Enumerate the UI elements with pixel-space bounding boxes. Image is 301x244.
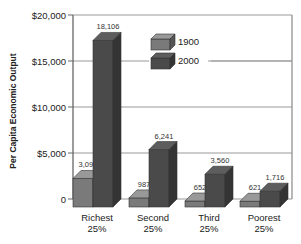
bar-chart: 0$5,000$10,000$15,000$20,000 3,09818,106… bbox=[0, 0, 301, 244]
value-label: 621 bbox=[249, 183, 262, 192]
legend-swatch bbox=[151, 58, 170, 69]
x-category-sublabel: 25% bbox=[199, 223, 219, 234]
legend-label: 1900 bbox=[178, 36, 199, 47]
y-tick-label: $5,000 bbox=[37, 148, 66, 159]
y-tick-label: $10,000 bbox=[32, 102, 66, 113]
x-category-label: Second bbox=[137, 212, 169, 223]
x-category-label: Third bbox=[198, 212, 220, 223]
x-category-sublabel: 25% bbox=[143, 223, 163, 234]
value-label: 652 bbox=[194, 183, 207, 192]
bar-2000: 1,716 bbox=[260, 173, 288, 207]
x-category-sublabel: 25% bbox=[254, 223, 274, 234]
value-label: 6,241 bbox=[155, 132, 174, 141]
y-tick-label: $15,000 bbox=[32, 56, 66, 67]
legend: 19002000 bbox=[149, 30, 292, 72]
bar-2000: 3,560 bbox=[205, 156, 233, 207]
value-label: 1,716 bbox=[266, 173, 285, 182]
x-category-label: Richest bbox=[81, 212, 113, 223]
value-label: 18,106 bbox=[97, 22, 120, 31]
y-tick-label: $20,000 bbox=[32, 10, 66, 21]
legend-swatch bbox=[151, 39, 170, 50]
value-label: 3,560 bbox=[211, 156, 230, 165]
bar-2000: 6,241 bbox=[149, 132, 177, 207]
legend-label: 2000 bbox=[178, 55, 199, 66]
y-axis-label: Per Capita Economic Output bbox=[8, 53, 18, 168]
x-category-label: Poorest bbox=[248, 212, 281, 223]
bar-2000: 18,106 bbox=[93, 22, 121, 207]
x-category-sublabel: 25% bbox=[87, 223, 107, 234]
value-label: 987 bbox=[138, 180, 151, 189]
y-tick-label: 0 bbox=[61, 194, 66, 205]
